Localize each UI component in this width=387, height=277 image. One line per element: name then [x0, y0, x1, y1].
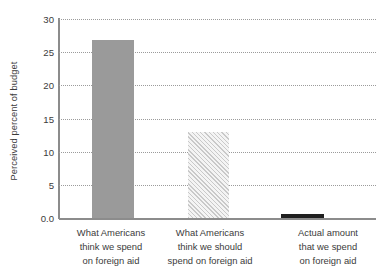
bar-chart: Perceived percent of budget 0.0510152025… — [0, 0, 387, 277]
x-axis-label-line: spend on foreign aid — [147, 254, 273, 268]
bar — [92, 40, 134, 218]
x-axis-label-line: think we should — [147, 240, 273, 254]
x-axis-category-label: Actual amountthat we spendon foreign aid — [272, 226, 384, 267]
x-axis-label-line: Actual amount — [272, 226, 384, 240]
y-axis-tick-label: 30 — [0, 14, 54, 25]
y-axis-tick-label: 20 — [0, 80, 54, 91]
gridline — [59, 19, 376, 20]
y-axis-tick-label: 5 — [0, 179, 54, 190]
y-axis-tick-label: 10 — [0, 146, 54, 157]
x-axis-line — [59, 218, 376, 220]
y-axis-tick-label: 0.0 — [0, 213, 54, 224]
x-axis-label-line: What Americans — [147, 226, 273, 240]
plot-area — [59, 19, 376, 218]
x-axis-label-line: on foreign aid — [272, 254, 384, 268]
x-axis-label-line: that we spend — [272, 240, 384, 254]
x-axis-category-label: What Americansthink we shouldspend on fo… — [147, 226, 273, 267]
y-axis-tick-label: 15 — [0, 113, 54, 124]
bar — [281, 214, 324, 218]
bar — [188, 132, 229, 218]
y-axis-tick-label: 25 — [0, 47, 54, 58]
x-axis-category-labels: What Americansthink we spendon foreign a… — [0, 226, 387, 277]
